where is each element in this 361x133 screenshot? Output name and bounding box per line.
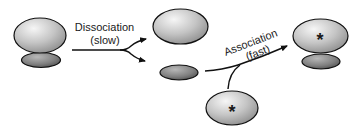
small-subunit-left — [22, 53, 61, 68]
marked-large-subunit: * — [206, 91, 258, 125]
free-large-subunit — [153, 9, 208, 44]
diagram-svg: Dissociation (slow) Association (fast) *… — [0, 0, 361, 133]
marker-star-icon-right: * — [316, 30, 323, 50]
complex-left — [14, 18, 66, 68]
diagram-canvas: Dissociation (slow) Association (fast) *… — [0, 0, 361, 133]
free-small-subunit — [160, 65, 198, 80]
dissociation-rate: (slow) — [90, 34, 119, 46]
dissociation-label: Dissociation — [75, 21, 134, 33]
complex-right: * — [293, 19, 348, 69]
small-subunit-right — [302, 54, 340, 69]
large-subunit-left — [14, 18, 66, 53]
marker-star-icon: * — [228, 102, 235, 122]
